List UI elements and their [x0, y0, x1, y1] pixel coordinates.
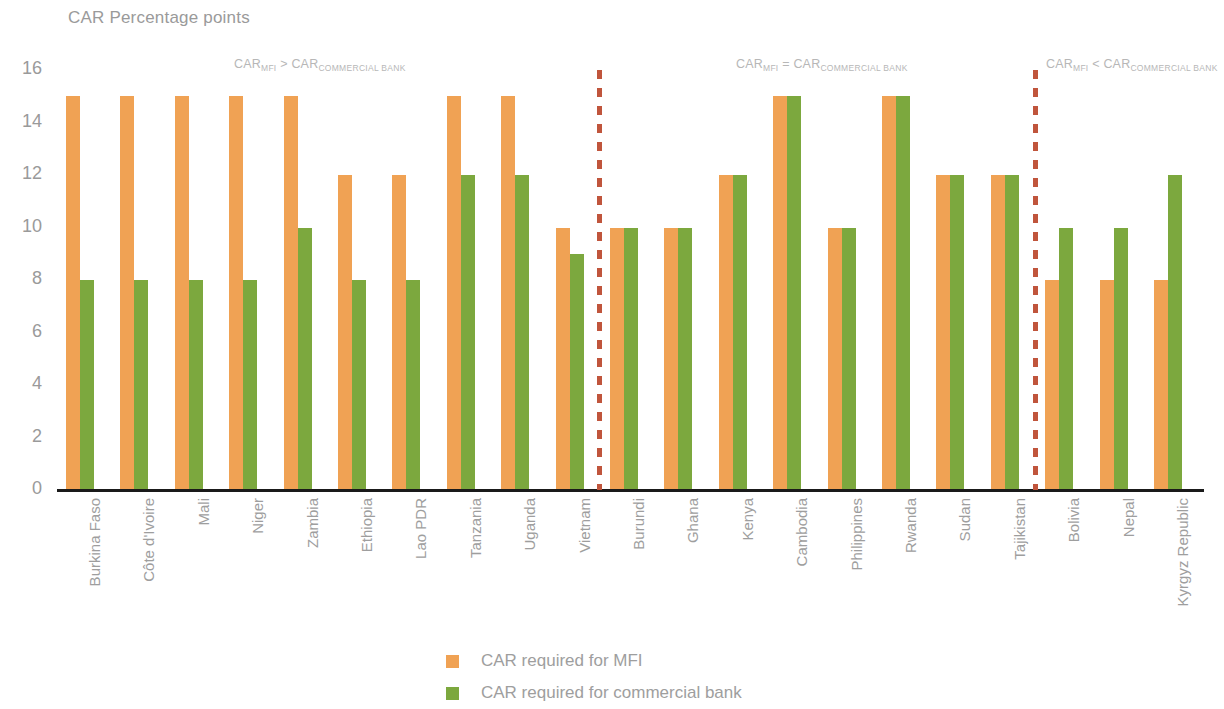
bar-group	[501, 64, 529, 490]
x-axis-label: Kenya	[739, 498, 756, 541]
bar-mfi[interactable]	[610, 228, 624, 491]
bar-group	[229, 64, 257, 490]
y-axis-tick: 14	[0, 112, 42, 130]
annotation-operator: > CAR	[277, 57, 319, 71]
bar-commercial-bank[interactable]	[842, 228, 856, 491]
annotation-subscript-right: COMMERCIAL BANK	[820, 63, 907, 73]
bar-mfi[interactable]	[882, 96, 896, 490]
section-annotation: CARMFI > CARCOMMERCIAL BANK	[234, 57, 406, 71]
x-axis-label: Lao PDR	[412, 498, 429, 559]
bar-commercial-bank[interactable]	[406, 280, 420, 490]
legend-label: CAR required for MFI	[481, 651, 643, 671]
bar-mfi[interactable]	[1100, 280, 1114, 490]
x-axis-label: Sudan	[956, 498, 973, 541]
bar-mfi[interactable]	[392, 175, 406, 490]
bar-commercial-bank[interactable]	[1005, 175, 1019, 490]
bar-mfi[interactable]	[936, 175, 950, 490]
bar-mfi[interactable]	[664, 228, 678, 491]
bar-commercial-bank[interactable]	[461, 175, 475, 490]
x-axis-label: Ethiopia	[358, 498, 375, 552]
y-axis-tick: 16	[0, 59, 42, 77]
bar-group	[338, 64, 366, 490]
bar-commercial-bank[interactable]	[352, 280, 366, 490]
annotation-operator: < CAR	[1089, 57, 1131, 71]
bar-group	[66, 64, 94, 490]
bar-mfi[interactable]	[1045, 280, 1059, 490]
bar-commercial-bank[interactable]	[896, 96, 910, 490]
bar-commercial-bank[interactable]	[787, 96, 801, 490]
y-axis-tick: 2	[0, 427, 42, 445]
bar-mfi[interactable]	[773, 96, 787, 490]
bar-commercial-bank[interactable]	[624, 228, 638, 491]
section-divider-dashed-line	[597, 70, 602, 490]
bar-commercial-bank[interactable]	[950, 175, 964, 490]
bar-group	[1154, 64, 1182, 490]
bar-commercial-bank[interactable]	[678, 228, 692, 491]
y-axis-tick: 6	[0, 322, 42, 340]
bar-commercial-bank[interactable]	[134, 280, 148, 490]
section-annotation: CARMFI = CARCOMMERCIAL BANK	[736, 57, 908, 71]
bar-mfi[interactable]	[175, 96, 189, 490]
annotation-subscript-left: MFI	[1073, 63, 1089, 73]
legend-color-swatch	[446, 655, 459, 668]
x-axis-label: Philippines	[848, 498, 865, 571]
x-axis-label: Zambia	[304, 498, 321, 548]
bar-commercial-bank[interactable]	[1114, 228, 1128, 491]
bar-commercial-bank[interactable]	[189, 280, 203, 490]
bar-group	[828, 64, 856, 490]
bar-commercial-bank[interactable]	[243, 280, 257, 490]
x-axis-label: Nepal	[1120, 498, 1137, 537]
bar-group	[1045, 64, 1073, 490]
page-title: CAR Percentage points	[68, 8, 250, 28]
legend-label: CAR required for commercial bank	[481, 683, 742, 703]
x-axis-label: Rwanda	[902, 498, 919, 553]
annotation-subscript-left: MFI	[261, 63, 277, 73]
bar-group	[447, 64, 475, 490]
bar-mfi[interactable]	[719, 175, 733, 490]
bar-group	[392, 64, 420, 490]
chart-legend: CAR required for MFICAR required for com…	[446, 645, 742, 709]
bar-mfi[interactable]	[556, 228, 570, 491]
bar-mfi[interactable]	[120, 96, 134, 490]
legend-item[interactable]: CAR required for commercial bank	[446, 677, 742, 709]
x-axis-label: Cambodia	[793, 498, 810, 566]
bar-commercial-bank[interactable]	[1059, 228, 1073, 491]
bar-mfi[interactable]	[1154, 280, 1168, 490]
bar-commercial-bank[interactable]	[298, 228, 312, 491]
bar-chart: CAR Percentage points 1614121086420 Burk…	[0, 0, 1224, 709]
bar-commercial-bank[interactable]	[570, 254, 584, 490]
bar-group	[664, 64, 692, 490]
y-axis-tick: 0	[0, 479, 42, 497]
x-axis-label: Côte d'Ivoire	[140, 498, 157, 582]
annotation-main-left: CAR	[234, 57, 261, 71]
x-axis-label: Mali	[195, 498, 212, 526]
legend-color-swatch	[446, 687, 459, 700]
bar-mfi[interactable]	[828, 228, 842, 491]
bar-mfi[interactable]	[229, 96, 243, 490]
x-axis-label: Burkina Faso	[86, 498, 103, 586]
bar-mfi[interactable]	[338, 175, 352, 490]
annotation-main-left: CAR	[736, 57, 763, 71]
bar-group	[120, 64, 148, 490]
bar-mfi[interactable]	[991, 175, 1005, 490]
x-axis-label: Vietnam	[576, 498, 593, 553]
x-axis-label: Burundi	[630, 498, 647, 550]
bar-group	[773, 64, 801, 490]
x-axis-label: Niger	[249, 498, 266, 534]
bar-group	[175, 64, 203, 490]
legend-item[interactable]: CAR required for MFI	[446, 645, 742, 677]
annotation-subscript-right: COMMERCIAL BANK	[318, 63, 405, 73]
section-annotation: CARMFI < CARCOMMERCIAL BANK	[1046, 57, 1218, 71]
bar-commercial-bank[interactable]	[733, 175, 747, 490]
bar-group	[1100, 64, 1128, 490]
bar-mfi[interactable]	[447, 96, 461, 490]
bar-commercial-bank[interactable]	[1168, 175, 1182, 490]
y-axis-tick: 10	[0, 217, 42, 235]
x-axis-label: Tanzania	[467, 498, 484, 558]
bar-mfi[interactable]	[501, 96, 515, 490]
bar-group	[610, 64, 638, 490]
bar-mfi[interactable]	[284, 96, 298, 490]
bar-mfi[interactable]	[66, 96, 80, 490]
bar-commercial-bank[interactable]	[80, 280, 94, 490]
bar-commercial-bank[interactable]	[515, 175, 529, 490]
